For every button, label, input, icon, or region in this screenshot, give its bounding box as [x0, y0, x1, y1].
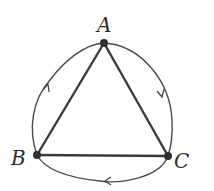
label-a: A	[95, 13, 111, 37]
triangle-cycle-diagram: A B C	[0, 0, 214, 191]
vertex-c	[164, 152, 172, 160]
edge-a-b	[37, 43, 104, 155]
label-c: C	[174, 149, 189, 173]
arrow-down-icon	[157, 89, 164, 97]
edge-a-c	[104, 43, 168, 156]
arc-c-to-b	[37, 155, 168, 182]
vertex-b	[33, 151, 41, 159]
arrow-left-icon	[105, 177, 111, 185]
vertex-a	[100, 39, 108, 47]
edge-b-c	[37, 155, 168, 156]
label-b: B	[10, 146, 26, 170]
